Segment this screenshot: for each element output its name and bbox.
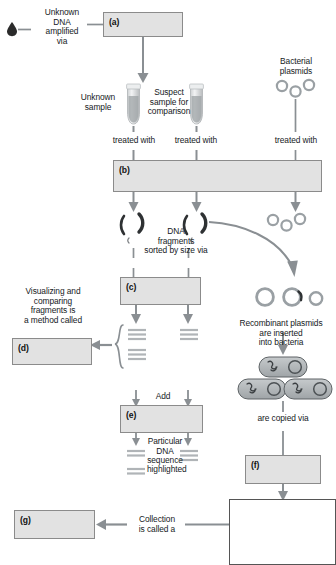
plasmid-ring-icon bbox=[257, 289, 323, 306]
label-unknown-sample: Unknown sample bbox=[70, 93, 126, 112]
step-box-c-tag: (c) bbox=[126, 282, 136, 292]
microcentrifuge-tube-icon bbox=[127, 84, 141, 124]
step-box-d-tag: (d) bbox=[18, 343, 29, 353]
step-box-a[interactable]: (a) bbox=[103, 12, 183, 37]
label-add: Add bbox=[145, 392, 181, 402]
gel-band-icon bbox=[180, 330, 198, 339]
step-box-g[interactable]: (g) bbox=[14, 510, 95, 539]
label-particular-dna-sequence: Particular DNA sequence bbox=[143, 437, 187, 466]
label-dna-fragments-sorted: DNA fragments sorted by size via bbox=[137, 227, 215, 256]
label-unknown-dna-amplified-via: Unknown DNA amplified via bbox=[34, 8, 90, 46]
label-collection-is-called-a: Collection is called a bbox=[129, 515, 185, 534]
label-are-copied-via: are copied via bbox=[250, 414, 316, 424]
label-highlighted: highlighted bbox=[147, 465, 209, 475]
label-recombinant-plasmids: Recombinant plasmids are inserted into b… bbox=[227, 319, 335, 348]
step-box-f-tag: (f) bbox=[251, 460, 259, 470]
gel-band-icon bbox=[128, 330, 146, 359]
label-treated-with-mid: treated with bbox=[169, 136, 223, 146]
plasmid-ring-icon bbox=[268, 214, 305, 231]
step-box-d[interactable]: (d) bbox=[12, 338, 92, 365]
bacterium-cell-icon bbox=[238, 379, 286, 399]
step-box-b-tag: (b) bbox=[119, 165, 130, 175]
step-box-a-tag: (a) bbox=[109, 17, 119, 27]
label-suspect-sample: Suspect sample for comparison bbox=[142, 88, 196, 117]
label-treated-with-right: treated with bbox=[268, 136, 324, 146]
step-box-e-tag: (e) bbox=[126, 410, 136, 420]
label-treated-with-left: treated with bbox=[107, 136, 161, 146]
label-visualizing-comparing: Visualizing and comparing fragments is a… bbox=[6, 287, 100, 325]
step-box-g-tag: (g) bbox=[20, 515, 31, 525]
bacterium-cell-icon bbox=[259, 357, 307, 377]
label-bacterial-plasmids: Bacterial plasmids bbox=[266, 57, 326, 76]
curly-brace-icon bbox=[115, 325, 123, 368]
bacterial-colony-box bbox=[229, 499, 336, 565]
diagram-canvas: (a) (b) (c) (d) (e) (f) (g) Unknown DNA … bbox=[0, 0, 336, 565]
step-box-c[interactable]: (c) bbox=[120, 277, 201, 305]
step-box-e[interactable]: (e) bbox=[120, 405, 203, 433]
plasmid-ring-icon bbox=[277, 80, 314, 97]
blood-drop-icon bbox=[7, 22, 17, 36]
step-box-b[interactable]: (b) bbox=[113, 160, 322, 192]
step-box-f[interactable]: (f) bbox=[245, 455, 321, 484]
bacterium-cell-icon bbox=[284, 379, 332, 399]
